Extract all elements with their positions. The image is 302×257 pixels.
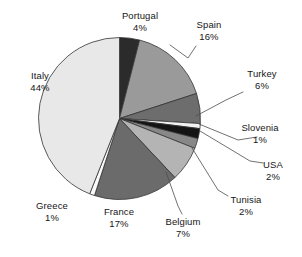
- slice-label-turkey-name: Turkey: [238, 68, 286, 80]
- slice-label-tunisia-percent: 2%: [222, 206, 270, 218]
- slice-label-france: France 17%: [95, 206, 143, 229]
- slice-label-slovenia-name: Slovenia: [231, 122, 289, 134]
- slice-label-portugal-name: Portugal: [111, 10, 169, 22]
- slice-label-france-name: France: [95, 206, 143, 218]
- slice-label-italy-percent: 44%: [14, 82, 66, 94]
- leader-line-tunisia: [192, 148, 228, 196]
- slice-label-usa-percent: 2%: [256, 171, 290, 183]
- slice-label-italy-name: Italy: [14, 70, 66, 82]
- slice-label-slovenia-percent: 1%: [231, 134, 289, 146]
- slice-label-belgium: Belgium 7%: [158, 216, 208, 239]
- slice-label-turkey: Turkey 6%: [238, 68, 286, 91]
- slice-label-spain: Spain 16%: [186, 19, 232, 42]
- slice-label-greece-percent: 1%: [27, 212, 77, 224]
- slice-label-spain-name: Spain: [186, 19, 232, 31]
- slice-label-france-percent: 17%: [95, 218, 143, 230]
- slice-label-belgium-percent: 7%: [158, 228, 208, 240]
- slice-label-belgium-name: Belgium: [158, 216, 208, 228]
- slice-label-greece: Greece 1%: [27, 200, 77, 223]
- pie-chart: Italy 44% Portugal 4% Spain 16% Turkey 6…: [0, 0, 302, 257]
- slice-label-spain-percent: 16%: [186, 31, 232, 43]
- slice-label-slovenia: Slovenia 1%: [231, 122, 289, 145]
- slice-label-usa-name: USA: [256, 159, 290, 171]
- slice-label-greece-name: Greece: [27, 200, 77, 212]
- slice-label-usa: USA 2%: [256, 159, 290, 182]
- slice-label-turkey-percent: 6%: [238, 80, 286, 92]
- slice-label-tunisia-name: Tunisia: [222, 194, 270, 206]
- slice-label-italy: Italy 44%: [14, 70, 66, 93]
- leader-line-turkey: [196, 92, 243, 116]
- pie-slices: [39, 38, 201, 200]
- slice-label-portugal: Portugal 4%: [111, 10, 169, 33]
- leader-line-spain: [170, 45, 196, 58]
- slice-label-tunisia: Tunisia 2%: [222, 194, 270, 217]
- slice-label-portugal-percent: 4%: [111, 22, 169, 34]
